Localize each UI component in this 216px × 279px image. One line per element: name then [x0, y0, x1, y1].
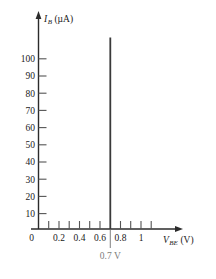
- x-tick-label-0p6: 0.6: [94, 233, 106, 243]
- y-tick-label-20: 20: [26, 192, 36, 202]
- svg-text:IB(µA): IB(µA): [43, 14, 73, 26]
- y-tick-labels: 100 90 80 70 60 50 40 30 20 10: [21, 54, 36, 219]
- x-axis-title: VBE(V): [163, 235, 194, 247]
- x-tick-label-1: 1: [139, 233, 144, 243]
- y-tick-label-100: 100: [21, 54, 36, 64]
- y-tick-label-40: 40: [26, 157, 36, 167]
- y-axis-arrow-icon: [36, 11, 42, 19]
- y-tick-label-50: 50: [26, 140, 36, 150]
- y-tick-label-30: 30: [26, 175, 36, 185]
- x-tick-labels: 0 0.2 0.4 0.6 0.8 1: [29, 233, 144, 243]
- turn-on-voltage-label: 0.7 V: [100, 251, 121, 261]
- y-axis-title-unit: (µA): [54, 14, 73, 25]
- bjt-input-characteristic-chart: 100 90 80 70 60 50 40 30 20 10 0: [0, 0, 216, 279]
- x-tick-label-0: 0: [29, 233, 34, 243]
- y-tick-label-60: 60: [26, 123, 36, 133]
- y-tick-label-70: 70: [26, 106, 36, 116]
- x-axis-arrow-icon: [175, 226, 183, 232]
- y-tick-label-80: 80: [26, 89, 36, 99]
- x-axis-title-unit: (V): [180, 235, 193, 246]
- svg-text:VBE(V): VBE(V): [163, 235, 194, 247]
- y-tick-label-10: 10: [26, 209, 36, 219]
- y-tick-marks: [39, 59, 47, 214]
- x-tick-label-0p8: 0.8: [115, 233, 127, 243]
- y-axis-title-subscript: B: [48, 18, 53, 26]
- y-tick-label-90: 90: [26, 71, 36, 81]
- y-axis-title: IB(µA): [43, 14, 73, 26]
- x-tick-label-0p2: 0.2: [53, 233, 65, 243]
- x-tick-label-0p4: 0.4: [74, 233, 86, 243]
- x-axis-title-subscript: BE: [169, 239, 178, 247]
- x-tick-marks: [49, 221, 152, 229]
- x-axis-group: [31, 226, 183, 232]
- figure-canvas: 100 90 80 70 60 50 40 30 20 10 0: [0, 0, 216, 279]
